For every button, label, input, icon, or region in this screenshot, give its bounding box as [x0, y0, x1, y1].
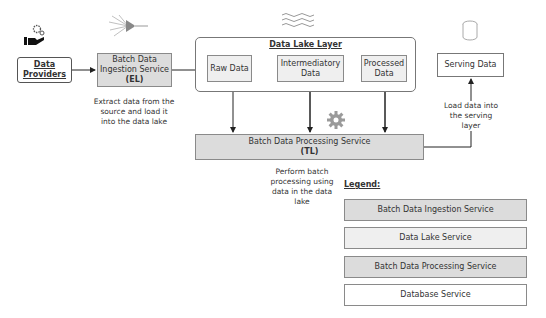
data-providers-line1: Data — [34, 60, 55, 70]
serving-data-label: Serving Data — [444, 60, 496, 70]
ingestion-tag: (EL) — [126, 75, 144, 85]
legend-item-processing: Batch Data Processing Service — [344, 256, 527, 278]
data-providers-box: Data Providers — [17, 57, 72, 83]
batch-ingestion-service-box: Batch Data Ingestion Service (EL) — [97, 53, 172, 87]
serving-note: Load data into the serving layer — [434, 101, 508, 131]
processed-line1: Processed — [364, 59, 404, 69]
fiber-funnel-icon — [108, 14, 150, 40]
legend-label: Data Lake Service — [399, 233, 471, 243]
data-lake-title: Data Lake Layer — [195, 40, 416, 49]
raw-data-box: Raw Data — [207, 55, 252, 82]
ingestion-note-line3: into the data lake — [88, 117, 180, 127]
ingestion-note-line1: Extract data from the — [88, 97, 180, 107]
water-waves-icon — [280, 12, 320, 28]
batch-processing-service-box: Batch Data Processing Service (TL) — [195, 134, 424, 160]
legend-item-database: Database Service — [344, 284, 527, 306]
legend-item-ingestion: Batch Data Ingestion Service — [344, 199, 527, 221]
serving-note-line3: layer — [434, 121, 508, 131]
database-cylinder-icon — [460, 20, 480, 42]
serving-note-line1: Load data into — [434, 101, 508, 111]
processed-line2: Data — [374, 69, 393, 79]
intermediate-line2: Data — [301, 69, 320, 79]
processing-note-line2: processing using — [262, 177, 342, 187]
serving-note-line2: the serving — [434, 111, 508, 121]
ingestion-line2: Ingestion Service — [100, 65, 169, 75]
processing-note-line1: Perform batch — [262, 167, 342, 177]
ingestion-note: Extract data from the source and load it… — [88, 97, 180, 127]
data-providers-line2: Providers — [23, 70, 66, 80]
processed-data-box: Processed Data — [361, 55, 407, 82]
legend-label: Batch Data Ingestion Service — [377, 205, 493, 215]
processing-note-line3: data in the data — [262, 187, 342, 197]
processing-note-line4: lake — [262, 197, 342, 207]
processing-tag: (TL) — [301, 147, 319, 157]
serving-data-box: Serving Data — [437, 53, 504, 77]
ingestion-line1: Batch Data — [112, 55, 157, 65]
legend-item-data-lake: Data Lake Service — [344, 227, 527, 249]
processing-line1: Batch Data Processing Service — [248, 137, 370, 147]
legend-title: Legend: — [344, 180, 380, 189]
processing-note: Perform batch processing using data in t… — [262, 167, 342, 207]
intermediate-line1: Intermediatory — [281, 59, 341, 69]
ingestion-note-line2: source and load it — [88, 107, 180, 117]
raw-data-label: Raw Data — [210, 64, 248, 74]
legend-label: Batch Data Processing Service — [374, 262, 496, 272]
hand-gears-icon — [22, 24, 46, 48]
intermediate-data-box: Intermediatory Data — [277, 55, 344, 82]
gear-icon — [326, 110, 346, 130]
legend-label: Database Service — [400, 290, 470, 300]
